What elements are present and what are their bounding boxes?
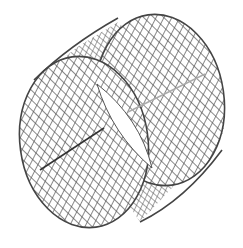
cylinder-figure (0, 0, 243, 248)
cylinder-wireframe (0, 0, 243, 248)
